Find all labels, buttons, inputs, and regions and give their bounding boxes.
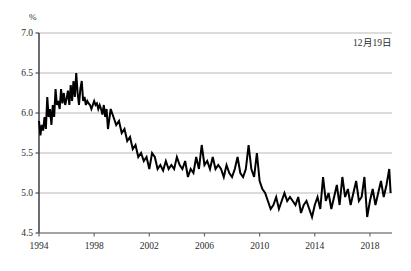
x-tick-label-1998: 1998	[85, 241, 104, 251]
chart-container: % 12月19日 4.55.05.56.06.57.0 199419982002…	[0, 0, 411, 271]
line-chart-plot: 4.55.05.56.06.57.0 199419982002200620102…	[0, 0, 411, 271]
x-tick-label-2006: 2006	[195, 241, 214, 251]
y-tick-label-6.5: 6.5	[21, 68, 33, 78]
y-axis: 4.55.05.56.06.57.0	[21, 28, 39, 238]
x-tick-label-2010: 2010	[250, 241, 269, 251]
x-tick-label-2014: 2014	[305, 241, 324, 251]
y-tick-label-5: 5.0	[21, 188, 33, 198]
y-tick-label-5.5: 5.5	[21, 148, 33, 158]
series-line-rate	[39, 73, 391, 217]
y-tick-label-4.5: 4.5	[21, 228, 33, 238]
x-tick-label-2018: 2018	[360, 241, 379, 251]
x-tick-label-1994: 1994	[30, 241, 49, 251]
data-series-group	[39, 73, 391, 217]
y-tick-label-6: 6.0	[21, 108, 33, 118]
y-tick-label-7: 7.0	[21, 28, 33, 38]
x-tick-label-2002: 2002	[140, 241, 159, 251]
x-axis: 1994199820022006201020142018	[30, 233, 393, 251]
